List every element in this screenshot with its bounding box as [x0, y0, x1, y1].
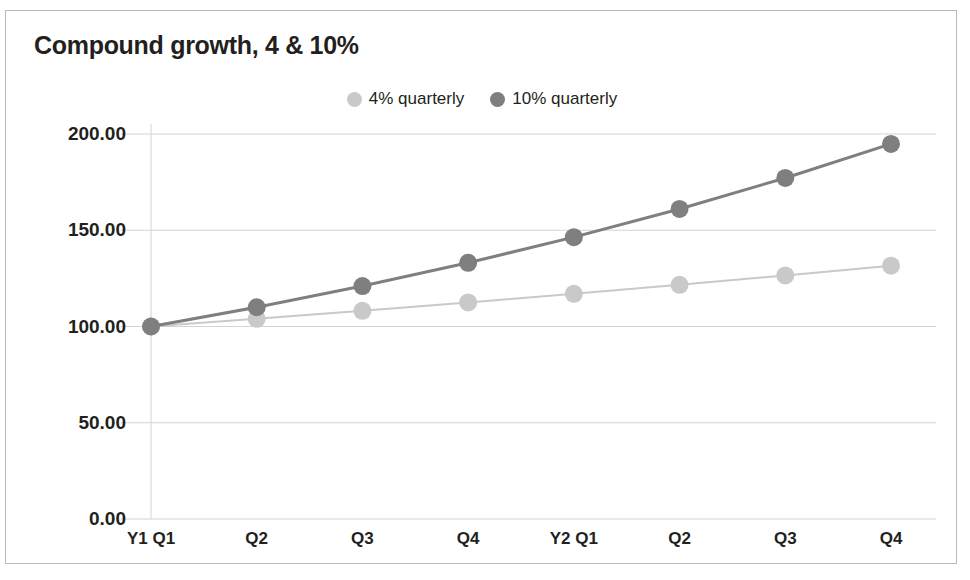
- legend-label-10-percent: 10% quarterly: [512, 89, 617, 109]
- data-point[interactable]: [882, 257, 900, 275]
- data-point[interactable]: [142, 318, 160, 336]
- legend-label-4-percent: 4% quarterly: [369, 89, 464, 109]
- data-point[interactable]: [459, 293, 477, 311]
- x-tick-label: Q2: [668, 529, 691, 549]
- data-point[interactable]: [565, 285, 583, 303]
- x-tick-label: Y1 Q1: [127, 529, 175, 549]
- series-line-10-percent: [151, 144, 891, 327]
- circle-marker-dark-icon: [490, 92, 505, 107]
- x-tick-label: Q4: [880, 529, 903, 549]
- page-title: Compound growth, 4 & 10%: [34, 31, 359, 60]
- data-point[interactable]: [459, 254, 477, 272]
- x-tick-label: Y2 Q1: [550, 529, 598, 549]
- y-tick-label: 100.00: [21, 316, 126, 338]
- data-point[interactable]: [248, 298, 266, 316]
- data-point[interactable]: [776, 169, 794, 187]
- data-point[interactable]: [565, 228, 583, 246]
- y-tick-label: 50.00: [21, 412, 126, 434]
- legend-item-4-percent[interactable]: 4% quarterly: [347, 89, 464, 109]
- x-tick-label: Q3: [351, 529, 374, 549]
- x-tick-label: Q3: [774, 529, 797, 549]
- data-point[interactable]: [671, 200, 689, 218]
- x-tick-label: Q4: [457, 529, 480, 549]
- y-tick-label: 0.00: [21, 508, 126, 530]
- data-point[interactable]: [353, 277, 371, 295]
- series-line-4-percent: [151, 266, 891, 327]
- legend-item-10-percent[interactable]: 10% quarterly: [490, 89, 617, 109]
- data-point[interactable]: [142, 318, 160, 336]
- x-tick-label: Q2: [245, 529, 268, 549]
- data-point[interactable]: [353, 302, 371, 320]
- chart-frame: Compound growth, 4 & 10% 4% quarterly 10…: [5, 10, 957, 564]
- y-tick-label: 150.00: [21, 219, 126, 241]
- y-tick-label: 200.00: [21, 123, 126, 145]
- data-point[interactable]: [776, 266, 794, 284]
- data-point[interactable]: [671, 276, 689, 294]
- circle-marker-light-icon: [347, 92, 362, 107]
- data-point[interactable]: [248, 310, 266, 328]
- data-point[interactable]: [882, 135, 900, 153]
- chart-legend: 4% quarterly 10% quarterly: [6, 89, 958, 109]
